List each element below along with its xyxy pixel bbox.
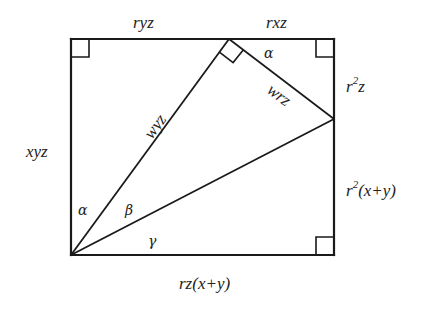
label-bottom: rz(x+y) (179, 274, 230, 293)
right-angle-top-left-icon (71, 39, 89, 57)
segment-wyz (71, 39, 229, 255)
angle-alpha-bottom: α (78, 202, 88, 218)
angle-alpha-top: α (264, 45, 274, 61)
angle-labels: α β γ α (78, 45, 274, 249)
label-xyz: xyz (25, 142, 48, 161)
right-angle-bottom-right-icon (316, 237, 334, 255)
right-angle-markers (71, 39, 334, 255)
rectangle (71, 39, 334, 255)
angle-beta: β (124, 202, 133, 218)
geometry-diagram: ryz rxz xyz rz(x+y) r2z r2(x+y) wyz wrz … (0, 0, 433, 312)
angle-gamma: γ (148, 233, 157, 249)
label-wyz: wyz (140, 110, 171, 142)
segment-hypotenuse (71, 119, 334, 255)
label-r2xy: r2(x+y) (346, 178, 396, 200)
label-ryz: ryz (133, 13, 154, 32)
right-angle-apex-icon (219, 50, 243, 63)
side-labels: ryz rxz xyz rz(x+y) r2z r2(x+y) wyz wrz (25, 13, 396, 293)
label-rxz: rxz (266, 13, 287, 32)
right-angle-top-right-icon (316, 39, 334, 57)
internal-segments (71, 39, 334, 255)
label-r2z: r2z (346, 74, 365, 96)
